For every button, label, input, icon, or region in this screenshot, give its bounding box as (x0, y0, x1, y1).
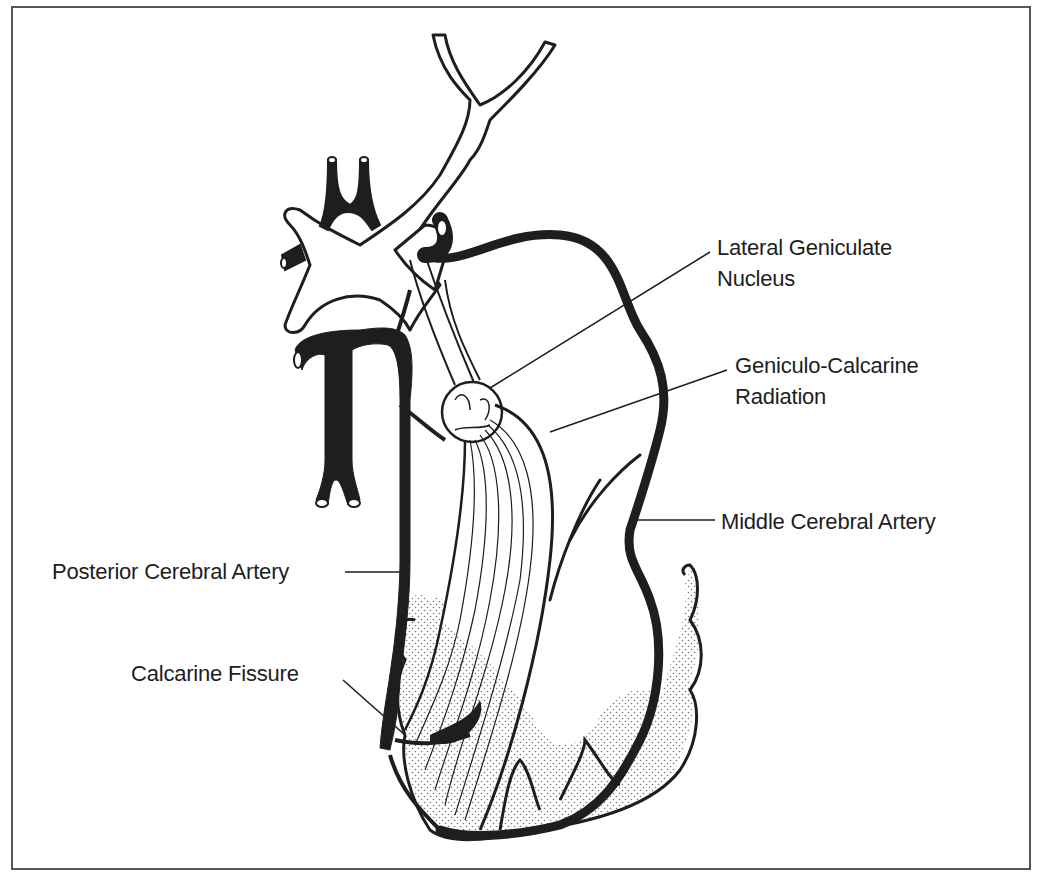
posterior-cerebral-artery (294, 328, 412, 750)
label-gcr-line1: Geniculo-Calcarine (735, 350, 919, 381)
anatomy-illustration (0, 0, 1041, 882)
label-middle-cerebral-artery: Middle Cerebral Artery (721, 506, 935, 537)
label-posterior-cerebral-artery: Posterior Cerebral Artery (52, 556, 289, 587)
label-calcarine-fissure: Calcarine Fissure (131, 658, 299, 689)
anterior-vessels (285, 35, 555, 333)
label-lgn-line2: Nucleus (717, 263, 892, 294)
vessel-lumen (437, 220, 447, 236)
label-lgn-line1: Lateral Geniculate (717, 232, 892, 263)
lateral-geniculate-nucleus (442, 382, 502, 442)
label-geniculo-calcarine-radiation: Geniculo-Calcarine Radiation (735, 350, 919, 412)
label-gcr-line2: Radiation (735, 381, 919, 412)
label-lateral-geniculate-nucleus: Lateral Geniculate Nucleus (717, 232, 892, 294)
